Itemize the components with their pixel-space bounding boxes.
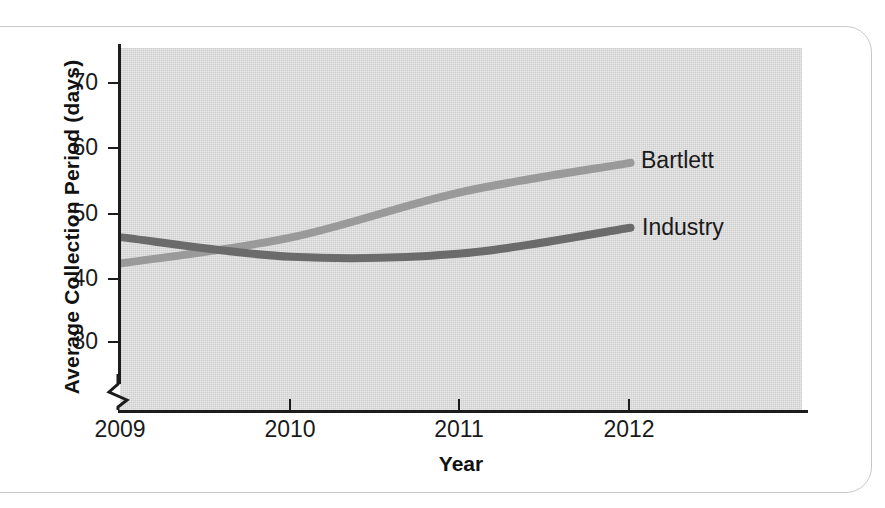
screenshot-page: 70 60 50 40 30 2009 2010 2011 2012 Avera… bbox=[0, 0, 885, 508]
x-tick-2011 bbox=[458, 399, 460, 412]
y-axis-title: Average Collection Period (days) bbox=[60, 37, 84, 417]
x-tick-label-2010: 2010 bbox=[235, 418, 345, 441]
x-tick-2012 bbox=[628, 399, 630, 412]
x-tick-label-2012: 2012 bbox=[574, 418, 684, 441]
y-tick-50 bbox=[108, 213, 121, 215]
y-axis-break-icon bbox=[106, 374, 132, 410]
y-tick-70 bbox=[108, 82, 121, 84]
y-tick-40 bbox=[108, 278, 121, 280]
x-tick-2010 bbox=[289, 399, 291, 412]
y-tick-60 bbox=[108, 147, 121, 149]
y-tick-30 bbox=[108, 341, 121, 343]
x-axis-title: Year bbox=[120, 452, 802, 476]
x-axis-line bbox=[118, 410, 808, 413]
series-label-bartlett: Bartlett bbox=[641, 149, 714, 172]
x-tick-label-2009: 2009 bbox=[65, 418, 175, 441]
line-chart-figure: 70 60 50 40 30 2009 2010 2011 2012 Avera… bbox=[0, 0, 885, 508]
x-tick-label-2011: 2011 bbox=[404, 418, 514, 441]
series-label-industry: Industry bbox=[642, 216, 724, 239]
